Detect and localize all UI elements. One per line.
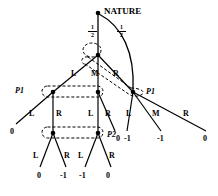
tree-graphics [0, 0, 218, 196]
action-label-rightp1-R: R [183, 110, 189, 118]
node-p1-right [131, 90, 136, 95]
action-label-p2a-R: R [64, 152, 70, 160]
player-label-p2: P2 [107, 131, 116, 139]
action-label-rightp1-M: M [152, 110, 160, 118]
probability-left-numerator: 1 [88, 24, 97, 30]
payoff-right-4: 0 [203, 135, 207, 143]
game-tree-diagram: NATURE 1 2 1 2 L M R P1 P1 P2 L R L R L … [0, 0, 218, 196]
payoff-bottom-3: -1 [79, 172, 86, 180]
action-label-midp1-L: L [88, 110, 93, 118]
action-label-node2-R: R [113, 70, 119, 78]
action-label-leftp1-R: R [56, 110, 62, 118]
action-label-p2a-L: L [33, 152, 38, 160]
action-label-p2b-R: R [109, 152, 115, 160]
payoff-bottom-2: -1 [60, 172, 67, 180]
payoff-right-1: 0 [116, 135, 120, 143]
payoff-left-outer: 0 [10, 128, 14, 136]
probability-right: 1 2 [117, 24, 126, 39]
node-second [96, 53, 101, 58]
node-nature-root [96, 11, 101, 16]
nature-label: NATURE [104, 7, 141, 16]
player-label-p1-right: P1 [146, 88, 155, 96]
payoff-right-2: -1 [124, 135, 131, 143]
payoff-right-3: -1 [157, 135, 164, 143]
payoff-bottom-4: 0 [106, 172, 110, 180]
payoff-bottom-1: 0 [37, 172, 41, 180]
action-label-node2-M: M [91, 70, 99, 78]
node-p1-mid [96, 90, 101, 95]
probability-right-denominator: 2 [117, 32, 126, 38]
edge-rightp1-R [133, 92, 206, 131]
node-p2-b [96, 131, 101, 136]
infoset-right-tail [82, 57, 88, 64]
action-label-rightp1-L: L [126, 110, 131, 118]
node-p2-a [51, 131, 56, 136]
action-label-midp1-R: R [105, 110, 111, 118]
probability-left: 1 2 [88, 24, 97, 39]
action-label-leftp1-L: L [29, 110, 34, 118]
player-label-p1-left: P1 [15, 87, 24, 95]
probability-right-numerator: 1 [117, 24, 126, 30]
action-label-node2-L: L [71, 70, 76, 78]
probability-left-denominator: 2 [88, 32, 97, 38]
node-p1-left [51, 90, 56, 95]
action-label-p2b-L: L [78, 152, 83, 160]
